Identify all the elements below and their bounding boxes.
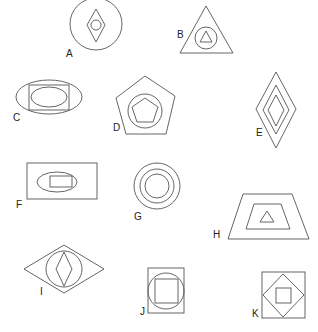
figure-d: D [113,76,175,134]
figure-label-k: K [252,308,259,319]
figure-b: B [177,6,233,53]
figure-label-a: A [66,48,73,59]
figure-j: J [140,268,184,317]
figure-b-polygon-0 [180,6,233,53]
figure-c-rect-1 [29,85,69,110]
figure-e-polygon-2 [268,95,284,126]
figure-a-circle-2 [91,20,101,30]
figure-b-polygon-2 [200,31,212,42]
figure-a-polygon-1 [87,9,105,42]
figure-k-polygon-1 [263,274,304,317]
figure-f-ellipse-1 [37,172,77,192]
figure-f-rect-2 [50,176,72,187]
figure-label-e: E [256,127,263,138]
figure-i-circle-1 [46,251,82,287]
figure-a: A [66,0,122,59]
figure-j-rect-2 [155,279,178,303]
figure-k-rect-2 [276,288,291,303]
figure-g-circle-2 [145,174,169,198]
figure-label-d: D [113,122,120,133]
figure-c-ellipse-2 [31,87,67,107]
figure-label-f: F [16,199,22,210]
figure-c: C [13,80,82,123]
figure-i: I [24,245,104,297]
figure-h-polygon-2 [260,211,274,222]
figure-f: F [16,163,97,210]
figure-label-g: G [134,211,142,222]
figure-h-polygon-0 [228,194,309,239]
figure-label-j: J [140,306,145,317]
figure-g: G [134,163,180,222]
figure-k-rect-0 [262,272,305,318]
figures-group: ABCDEFGHIJK [13,0,309,319]
figure-d-polygon-0 [116,76,175,134]
figure-e: E [256,72,296,148]
figure-label-i: I [40,286,43,297]
figure-d-polygon-2 [132,98,158,122]
figure-h-polygon-1 [246,204,290,229]
diagram-canvas: ABCDEFGHIJK [0,0,318,332]
figure-k: K [252,272,305,319]
figure-label-c: C [13,112,20,123]
figure-label-b: B [177,29,184,40]
figure-i-polygon-2 [56,252,72,286]
figure-j-rect-0 [148,268,184,313]
figure-g-circle-0 [134,163,180,209]
figure-h: H [213,194,309,240]
figure-j-circle-1 [148,273,184,309]
figure-label-h: H [213,229,220,240]
